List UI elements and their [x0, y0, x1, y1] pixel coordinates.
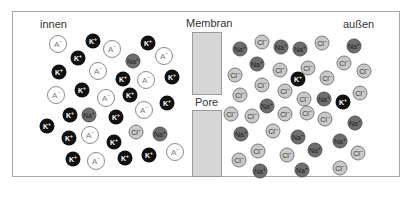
sodium-ion-icon: Na+ — [260, 99, 275, 114]
ion-symbol: Na+ — [261, 102, 273, 110]
membrane-label: Membran — [186, 17, 232, 29]
ion-symbol: K+ — [121, 154, 129, 162]
ion-symbol: K+ — [119, 75, 127, 83]
ion-symbol: Na+ — [234, 45, 246, 53]
ion-symbol: Cl– — [253, 147, 262, 155]
chloride-ion-icon: Cl– — [232, 153, 247, 168]
sodium-ion-icon: Na+ — [126, 54, 141, 69]
ion-symbol: Cl– — [131, 128, 140, 136]
ion-symbol: Na+ — [127, 57, 139, 65]
sodium-ion-icon: Na+ — [82, 108, 97, 123]
ion-symbol: Cl– — [303, 64, 312, 72]
anion-icon: A– — [137, 71, 155, 89]
ion-symbol: Na+ — [251, 60, 263, 68]
ion-symbol: Cl– — [257, 81, 266, 89]
ion-symbol: K+ — [163, 99, 171, 107]
sodium-ion-icon: Na+ — [295, 163, 310, 178]
outside-label: außen — [343, 18, 374, 30]
ion-symbol: A– — [160, 51, 168, 61]
ion-symbol: Na+ — [296, 166, 308, 174]
ion-symbol: K+ — [110, 138, 118, 146]
chloride-ion-icon: Cl– — [318, 112, 333, 127]
ion-symbol: K+ — [294, 75, 302, 83]
anion-icon: A– — [103, 40, 121, 58]
chloride-ion-icon: Cl– — [251, 144, 266, 159]
ion-symbol: Cl– — [275, 66, 284, 74]
anion-icon: A– — [135, 101, 153, 119]
ion-symbol: K+ — [69, 155, 77, 163]
ion-symbol: Cl– — [355, 89, 364, 97]
ion-symbol: Cl– — [320, 115, 329, 123]
chloride-ion-icon: Cl– — [255, 35, 270, 50]
ion-symbol: A– — [54, 39, 62, 49]
sodium-ion-icon: Na+ — [234, 127, 249, 142]
sodium-ion-icon: Na+ — [333, 134, 348, 149]
inside-label: innen — [40, 18, 67, 30]
chloride-ion-icon: Cl– — [300, 106, 315, 121]
chloride-ion-icon: Cl– — [228, 68, 243, 83]
ion-symbol: K+ — [168, 73, 176, 81]
ion-symbol: A– — [94, 66, 102, 76]
sodium-ion-icon: Na+ — [347, 39, 362, 54]
ion-symbol: Cl– — [339, 59, 348, 67]
potassium-ion-icon: K+ — [141, 36, 156, 51]
potassium-ion-icon: K+ — [291, 72, 306, 87]
ion-symbol: A– — [52, 90, 60, 100]
chloride-ion-icon: Cl– — [245, 109, 260, 124]
ion-symbol: Cl– — [302, 109, 311, 117]
anion-icon: A– — [166, 143, 184, 161]
anion-icon: A– — [89, 62, 107, 80]
chloride-ion-icon: Cl– — [255, 78, 270, 93]
potassium-ion-icon: K+ — [165, 70, 180, 85]
chloride-ion-icon: Cl– — [351, 146, 366, 161]
anion-icon: A– — [47, 86, 65, 104]
ion-symbol: Cl– — [226, 110, 235, 118]
ion-symbol: K+ — [66, 111, 74, 119]
ion-symbol: Cl– — [359, 67, 368, 75]
ion-symbol: K+ — [144, 39, 152, 47]
ion-symbol: Cl– — [247, 112, 256, 120]
chloride-ion-icon: Cl– — [233, 88, 248, 103]
ion-symbol: Cl– — [234, 156, 243, 164]
ion-symbol: K+ — [126, 91, 134, 99]
potassium-ion-icon: K+ — [66, 152, 81, 167]
anion-icon: A– — [155, 47, 173, 65]
chloride-ion-icon: Cl– — [280, 148, 295, 163]
ion-symbol: Na+ — [154, 130, 166, 138]
potassium-ion-icon: K+ — [116, 72, 131, 87]
chloride-ion-icon: Cl– — [337, 56, 352, 71]
chloride-ion-icon: Cl– — [278, 84, 293, 99]
ion-symbol: K+ — [74, 54, 82, 62]
chloride-ion-icon: Cl– — [333, 161, 348, 176]
anion-icon: A– — [97, 89, 115, 107]
ion-symbol: K+ — [78, 86, 86, 94]
potassium-ion-icon: K+ — [123, 88, 138, 103]
sodium-ion-icon: Na+ — [250, 57, 265, 72]
potassium-ion-icon: K+ — [62, 131, 77, 146]
ion-symbol: A– — [108, 44, 116, 54]
ion-symbol: Na+ — [83, 111, 95, 119]
potassium-ion-icon: K+ — [160, 96, 175, 111]
ion-symbol: Cl– — [268, 127, 277, 135]
potassium-ion-icon: K+ — [107, 135, 122, 150]
ion-symbol: Cl– — [257, 38, 266, 46]
ion-symbol: A– — [142, 75, 150, 85]
ion-symbol: K+ — [145, 151, 153, 159]
ion-symbol: Na+ — [294, 45, 306, 53]
membrane-lower-block — [192, 110, 222, 177]
potassium-ion-icon: K+ — [109, 110, 124, 125]
sodium-ion-icon: Na+ — [274, 40, 289, 55]
ion-symbol: Cl– — [335, 164, 344, 172]
ion-symbol: Cl– — [353, 149, 362, 157]
ion-symbol: Cl– — [230, 71, 239, 79]
ion-symbol: Cl– — [235, 91, 244, 99]
sodium-ion-icon: Na+ — [233, 42, 248, 57]
ion-symbol: Cl– — [282, 151, 291, 159]
sodium-ion-icon: Na+ — [291, 130, 306, 145]
sodium-ion-icon: Na+ — [153, 127, 168, 142]
potassium-ion-icon: K+ — [52, 65, 67, 80]
chloride-ion-icon: Cl– — [278, 107, 293, 122]
ion-symbol: A– — [92, 156, 100, 166]
ion-symbol: Na+ — [292, 133, 304, 141]
anion-icon: A– — [87, 152, 105, 170]
